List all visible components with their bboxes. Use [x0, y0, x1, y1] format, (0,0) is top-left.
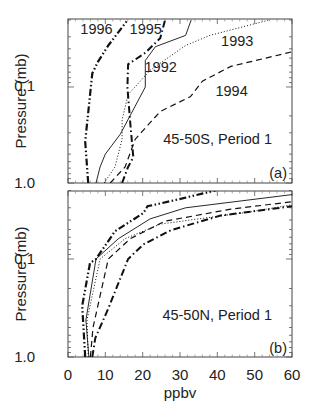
series-1996-line	[85, 20, 128, 183]
x-tick-label: 60	[284, 366, 301, 383]
panel-a-label: (a)	[269, 165, 287, 181]
series-label-1995: 1995	[130, 21, 162, 37]
series-label-1994: 1994	[215, 83, 247, 99]
panel-b-label: (b)	[269, 340, 287, 356]
series-1992-line	[86, 195, 292, 357]
series-label-1993: 1993	[221, 33, 253, 49]
panel-b-annotation: 45-50N, Period 1	[162, 307, 272, 323]
x-tick-labels: 0102030405060	[64, 366, 301, 383]
panel-b: 0.1 1.0 Pressure (mb) 45-50N, Period 1 (…	[12, 191, 292, 366]
series-1994-line	[110, 52, 292, 183]
series-label-1992: 1992	[145, 59, 177, 75]
series-1996-line	[82, 191, 215, 358]
panel-a-ytick-1.0: 1.0	[14, 174, 35, 191]
panel-a-series	[85, 20, 292, 183]
panel-a: 19921993199419951996 0.1 1.0 Pressure (m…	[12, 19, 292, 191]
x-tick-label: 0	[64, 366, 72, 383]
panel-a-ticks	[68, 19, 292, 183]
x-tick-label: 10	[97, 366, 114, 383]
panel-b-series	[82, 191, 292, 358]
panel-a-annotation: 45-50S, Period 1	[163, 131, 272, 147]
figure: 19921993199419951996 0.1 1.0 Pressure (m…	[0, 0, 312, 417]
panel-b-ticks	[68, 191, 292, 357]
panel-a-series-labels: 19921993199419951996	[80, 21, 253, 99]
x-tick-label: 50	[246, 366, 263, 383]
panel-b-ytick-1.0: 1.0	[14, 348, 35, 365]
panel-a-frame	[68, 19, 292, 183]
chart-canvas: 19921993199419951996 0.1 1.0 Pressure (m…	[0, 0, 312, 417]
panel-a-ylabel: Pressure (mb)	[12, 53, 29, 148]
x-tick-label: 40	[209, 366, 226, 383]
x-tick-label: 30	[172, 366, 189, 383]
panel-b-frame	[68, 191, 292, 357]
panel-b-ylabel: Pressure (mb)	[12, 226, 29, 321]
series-1995-line	[92, 206, 292, 357]
x-axis-label: ppbv	[164, 384, 197, 401]
series-label-1996: 1996	[80, 21, 112, 37]
x-tick-label: 20	[134, 366, 151, 383]
series-1993-line	[87, 205, 292, 357]
